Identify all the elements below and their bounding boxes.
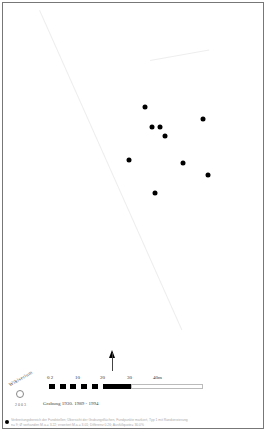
legend-marker-icon [5,420,9,424]
logo: Wikiserium 2003 [7,381,33,407]
scale-label: 0 2 [47,375,53,380]
site-marker-icon [153,191,158,196]
site-marker-icon [206,173,211,178]
map-frame [2,2,264,429]
site-marker-icon [158,125,163,130]
site-marker-icon [181,161,186,166]
site-marker-icon [150,125,155,130]
scale-labels: 0 2 10 20 30 40m [0,375,268,383]
site-marker-icon [163,134,168,139]
logo-emblem-icon [16,390,24,398]
survey-dates: Grabung 1930. 1989 - 1994 [43,401,98,406]
scale-label: 10 [75,375,80,380]
legend-caption: Verbreitungsbereich der Fundstellen; Übe… [11,418,261,428]
site-marker-icon [143,105,148,110]
caption-line-2: n= 9; Ø vorhanden M.a.= 3.22; erweitert … [11,423,261,428]
scale-label: 20 [100,375,105,380]
scale-label: 40m [153,375,162,380]
site-marker-icon [201,117,206,122]
logo-year: 2003 [15,402,27,407]
site-marker-icon [127,158,132,163]
north-arrow-shaft [112,353,113,371]
scale-label: 30 [127,375,132,380]
